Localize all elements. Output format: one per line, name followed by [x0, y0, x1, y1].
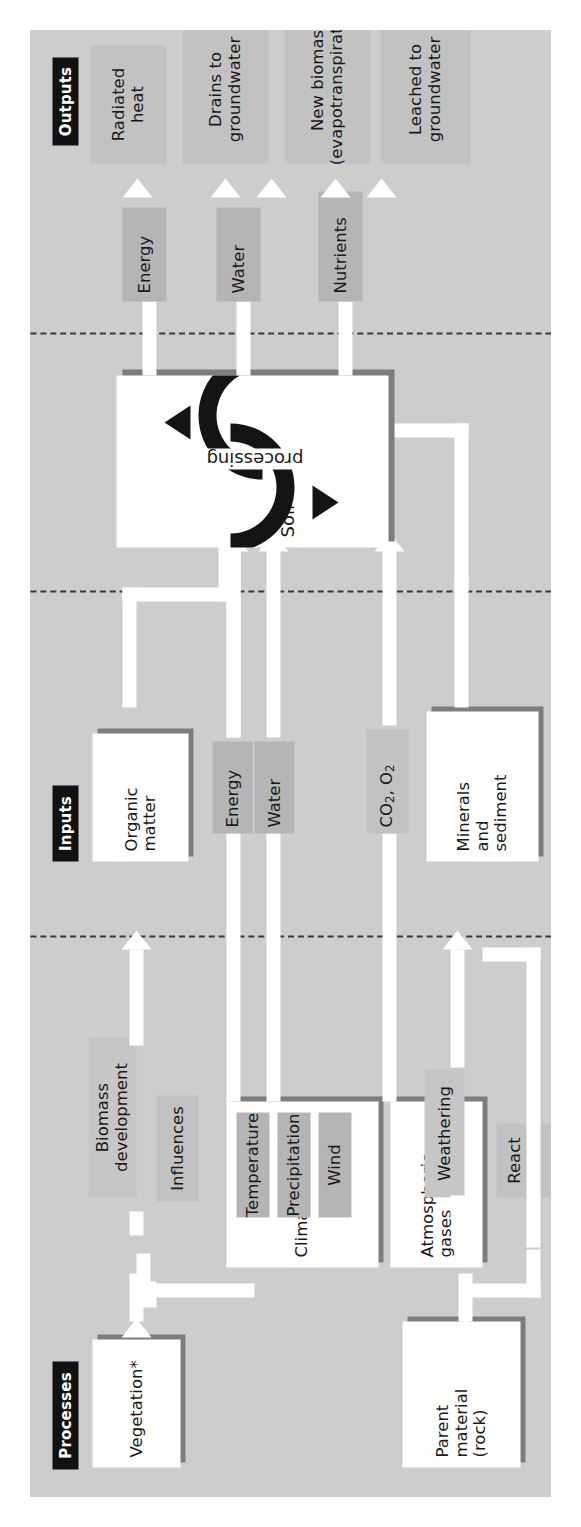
- input-organic-matter-label: Organic matter: [122, 787, 159, 851]
- shaft-energy-into-core-2: [226, 549, 240, 737]
- arrow-output-4: [320, 178, 350, 197]
- input-gases[interactable]: CO2, O2: [366, 729, 408, 833]
- arrow-output-5: [366, 178, 396, 197]
- divider-core-outputs: [30, 332, 551, 334]
- shaft-co2-into-core: [382, 549, 396, 725]
- section-header-processes: Processes: [52, 1361, 78, 1469]
- arrow-output-3: [256, 178, 286, 197]
- rail-climate-energy: [226, 833, 240, 1101]
- label-weathering: Weathering: [424, 1069, 464, 1197]
- connector-react-with-shaft: [458, 1273, 472, 1321]
- connector-gases-to-parent-horizontal: [526, 1249, 540, 1297]
- box-climate-label: Climate: [236, 1223, 366, 1257]
- arrow-weathering-to-minerals: [442, 930, 472, 949]
- shaft-core-to-energy-out: [142, 301, 156, 375]
- arrow-biomass-to-organic-matter: [121, 930, 151, 949]
- label-react-with: React with: [496, 1123, 551, 1197]
- output-store-nutrients[interactable]: Nutrients: [318, 191, 362, 301]
- arrow-influences-to-vegetation: [121, 1318, 151, 1337]
- connector-influences-to-vegetation-shaft: [129, 1273, 143, 1321]
- connector-vegetation-to-biomass-dot: [129, 1211, 143, 1235]
- rail-organic-matter-riser: [122, 587, 232, 601]
- divider-inputs-core: [30, 590, 551, 592]
- rail-climate-water: [266, 833, 280, 1101]
- shaft-water-into-core: [266, 549, 280, 737]
- core-processing-text: processing: [204, 448, 305, 469]
- section-header-processes-label: Processes: [58, 1372, 73, 1459]
- climate-item-temperature[interactable]: Temperature: [236, 1112, 269, 1217]
- connector-parent-to-weathering-dot: [450, 1195, 464, 1217]
- output-store-energy[interactable]: Energy: [122, 207, 166, 301]
- shaft-biomass-to-organic-matter: [129, 949, 143, 1045]
- connector-bottom-rail: [526, 947, 540, 1247]
- section-header-inputs: Inputs: [52, 785, 78, 861]
- shaft-weathering-to-minerals: [450, 949, 464, 1067]
- output-leached-to-groundwater: Leached to groundwater: [380, 30, 470, 163]
- section-header-outputs-label: Outputs: [56, 66, 74, 136]
- output-new-biomass: New biomas (evapotranspiration): [284, 30, 370, 163]
- rail-gases-co2o2: [382, 833, 396, 1101]
- rail-minerals-horizontal: [454, 577, 468, 707]
- arrow-output-2: [210, 178, 240, 197]
- label-biomass-development: Biomass development: [88, 1037, 136, 1197]
- label-influences: Influences: [156, 1095, 198, 1201]
- input-minerals-and-sediment[interactable]: Minerals and sediment: [426, 711, 538, 861]
- arrow-output-1: [122, 178, 152, 197]
- input-water[interactable]: Water: [254, 741, 294, 833]
- rail-minerals-bottom: [454, 423, 468, 591]
- section-header-inputs-label: Inputs: [56, 796, 74, 851]
- input-energy[interactable]: Energy: [212, 741, 252, 833]
- diagram-stage: Processes Vegetation* Parent material (r…: [30, 30, 551, 1497]
- box-parent-material-label: Parent material (rock): [433, 1388, 488, 1457]
- connector-bottom-rail-riser: [482, 947, 540, 961]
- climate-item-precipitation[interactable]: Precipitation: [277, 1112, 310, 1217]
- figure-canvas: Processes Vegetation* Parent material (r…: [30, 30, 551, 1497]
- output-radiated-heat: Radiated heat: [90, 45, 166, 163]
- input-organic-matter[interactable]: Organic matter: [92, 733, 188, 861]
- output-store-water[interactable]: Water: [216, 207, 260, 301]
- arrow-react-with-to-parent: [450, 1318, 480, 1337]
- input-gases-label: CO2, O2: [377, 764, 397, 827]
- climate-item-wind[interactable]: Wind: [318, 1112, 351, 1217]
- divider-processes-inputs: [30, 935, 551, 937]
- input-minerals-label: Minerals and sediment: [454, 774, 509, 851]
- box-parent-material[interactable]: Parent material (rock): [402, 1321, 520, 1467]
- box-vegetation-label: Vegetation*: [127, 1360, 145, 1457]
- rail-organic-matter-horizontal: [122, 587, 136, 707]
- box-vegetation[interactable]: Vegetation*: [92, 1339, 180, 1467]
- output-drains-to-groundwater: Drains to groundwater: [182, 30, 268, 163]
- shaft-core-to-nutrients-out: [338, 301, 352, 375]
- figure-page: Processes Vegetation* Parent material (r…: [0, 0, 581, 1527]
- section-header-outputs: Outputs: [52, 57, 78, 145]
- core-soil-processing[interactable]: Soil processing processing: [116, 375, 388, 547]
- shaft-core-to-water-out: [236, 301, 250, 375]
